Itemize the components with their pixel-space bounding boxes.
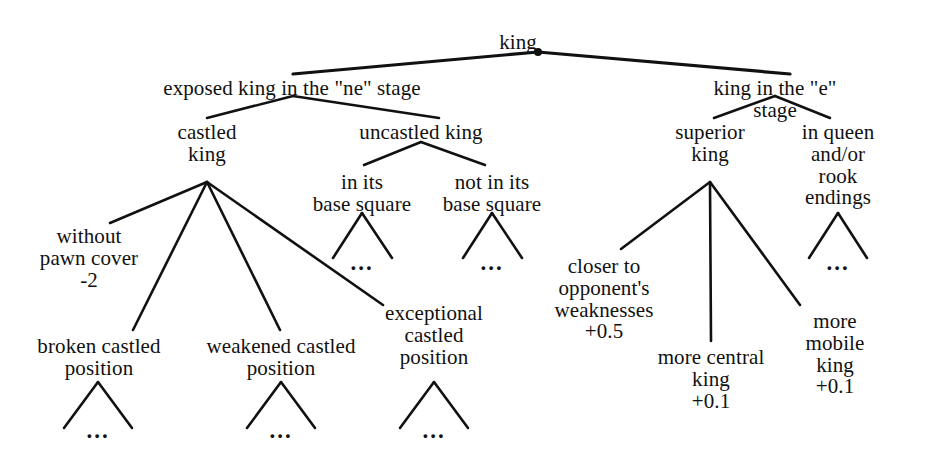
tree-edges-layer	[0, 0, 934, 470]
node-king-e-stage: king in the "e" stage	[696, 78, 855, 122]
edge-root-to-e-stage	[538, 52, 790, 74]
edge-root-to-exposed-stage	[293, 52, 538, 74]
ellipsis-weakened-castled: ...	[269, 419, 292, 443]
edge-castled-to-without-pawn	[110, 182, 207, 223]
edge-superior-to-more-central	[710, 182, 711, 341]
node-broken-castled-position: broken castled position	[37, 336, 160, 380]
node-castled-king: castled king	[177, 122, 236, 166]
node-uncastled-king: uncastled king	[359, 122, 482, 144]
node-superior-king: superior king	[675, 122, 745, 166]
node-more-mobile-king: more mobile king +0.1	[786, 311, 885, 398]
node-weakened-castled-position: weakened castled position	[206, 336, 355, 380]
figure-canvas: king exposed king in the "ne" stage king…	[0, 0, 934, 470]
node-not-in-its-base-square: not in its base square	[443, 172, 541, 216]
ellipsis-in-base-square: ...	[350, 251, 373, 275]
node-in-its-base-square: in its base square	[313, 172, 411, 216]
edge-uncastled-to-in-base	[364, 142, 421, 165]
node-exceptional-castled-position: exceptional castled position	[385, 303, 483, 368]
ellipsis-broken-castled: ...	[86, 419, 109, 443]
ellipsis-queen-rook-endings: ...	[826, 251, 849, 275]
node-more-central-king: more central king +0.1	[658, 347, 765, 412]
node-queen-rook-endings: in queen and/or rook endings	[790, 122, 886, 209]
node-root: king	[499, 32, 537, 54]
node-closer-to-opponents-weaknesses: closer to opponent's weaknesses +0.5	[555, 256, 654, 343]
node-without-pawn-cover: without pawn cover -2	[40, 226, 138, 291]
ellipsis-exceptional-castled: ...	[422, 419, 445, 443]
ellipsis-not-in-base-square: ...	[480, 251, 503, 275]
edge-superior-to-more-mobile	[710, 182, 800, 305]
edge-castled-to-weakened	[207, 182, 280, 330]
edge-castled-to-broken	[133, 182, 207, 330]
edge-uncastled-to-not-in-base	[421, 142, 485, 165]
edge-superior-to-closer	[621, 182, 710, 249]
node-exposed-king-ne-stage: exposed king in the "ne" stage	[163, 78, 421, 100]
